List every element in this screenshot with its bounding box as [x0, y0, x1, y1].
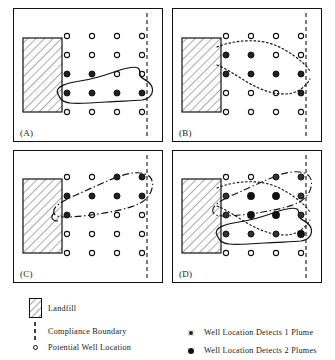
legend-item-compliance-boundary: Compliance Boundary — [22, 322, 127, 340]
panel-a-graphic — [14, 9, 162, 141]
panel-d-graphic — [173, 151, 321, 282]
legend-item-detects-one-plume: Well Location Detects 1 Plume — [178, 328, 313, 337]
filled-dot-two-plumes-icon — [178, 348, 204, 354]
well-grid — [223, 33, 303, 114]
legend-label-detects-one-plume: Well Location Detects 1 Plume — [204, 328, 313, 337]
legend-item-potential-well: Potential Well Location — [22, 343, 131, 352]
panel-b: (B) — [172, 8, 322, 142]
plume-outline-dotted-top — [217, 182, 310, 212]
landfill-hatch-icon — [29, 298, 42, 318]
legend-label-potential-well: Potential Well Location — [48, 343, 131, 352]
wells-detecting — [223, 52, 304, 96]
panel-c: (C) — [13, 150, 163, 283]
plume-outline-dotted-bottom — [217, 65, 310, 94]
legend-label-detects-two-plumes: Well Location Detects 2 Plumes — [204, 346, 317, 355]
panel-b-graphic — [173, 9, 321, 141]
legend: Landfill Compliance Boundary Potential W… — [0, 288, 335, 360]
landfill-rect — [182, 179, 221, 253]
figure-well-plume-panels: (A) — [0, 0, 335, 360]
legend-item-landfill: Landfill — [22, 298, 76, 318]
landfill-swatch-icon — [22, 298, 48, 318]
legend-label-compliance-boundary: Compliance Boundary — [48, 327, 127, 336]
panel-b-label: (B) — [179, 128, 192, 138]
dashed-line-icon — [22, 322, 48, 340]
landfill-rect — [23, 38, 62, 112]
panel-d-label: (D) — [179, 269, 192, 279]
panel-c-label: (C) — [20, 269, 33, 279]
filled-dot-one-plume-icon — [178, 330, 204, 336]
compliance-boundary-icon — [33, 322, 37, 340]
panel-c-graphic — [14, 151, 162, 282]
landfill-rect — [23, 179, 62, 253]
panel-a: (A) — [13, 8, 163, 142]
legend-item-detects-two-plumes: Well Location Detects 2 Plumes — [178, 346, 317, 355]
open-circle-icon — [22, 345, 48, 350]
plume-outline-dotted-bottom — [217, 206, 310, 235]
panel-d: (D) — [172, 150, 322, 283]
well-grid — [64, 174, 144, 255]
landfill-rect — [182, 38, 221, 112]
plume-outline-dotted-top — [217, 41, 310, 71]
plume-outline-solid — [216, 208, 311, 244]
panel-a-label: (A) — [20, 128, 33, 138]
plume-outline-solid — [57, 67, 152, 103]
wells-detecting — [64, 174, 145, 218]
legend-label-landfill: Landfill — [48, 304, 76, 313]
